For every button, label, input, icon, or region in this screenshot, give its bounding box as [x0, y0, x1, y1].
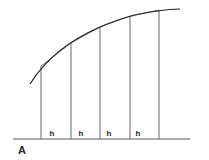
- panel-label: A: [18, 144, 26, 156]
- interval-label-h-2: h: [79, 129, 84, 138]
- interval-labels: hhhh: [50, 129, 141, 138]
- ordinate-lines: [41, 10, 159, 139]
- interval-label-h-1: h: [50, 129, 55, 138]
- function-curve: [30, 9, 180, 84]
- interval-label-h-4: h: [136, 129, 141, 138]
- trapezoid-rule-diagram: hhhh A: [0, 0, 209, 160]
- interval-label-h-3: h: [107, 129, 112, 138]
